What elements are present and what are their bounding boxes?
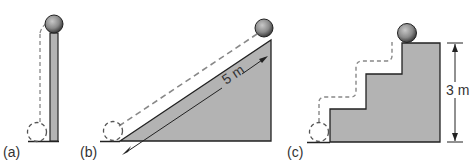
arrowhead-icon <box>452 44 458 52</box>
ball-start-icon <box>28 123 47 142</box>
inclined-plane <box>120 40 271 141</box>
ball-icon <box>45 15 63 33</box>
work-energy-diagram: (a) 5 m (b) 3 m (c) <box>0 0 475 163</box>
panel-label-c: (c) <box>287 144 303 160</box>
panel-b: 5 m (b) <box>80 19 273 160</box>
ball-icon <box>255 19 273 37</box>
panel-a: (a) <box>3 15 63 160</box>
staircase <box>330 43 440 142</box>
arrowhead-icon <box>452 133 458 141</box>
ball-start-icon <box>104 122 123 141</box>
panel-label-b: (b) <box>80 144 97 160</box>
ball-icon <box>398 24 417 43</box>
panel-label-a: (a) <box>3 144 20 160</box>
ball-start-icon <box>310 123 329 142</box>
arrowhead-icon <box>122 146 131 155</box>
height-label: 3 m <box>446 82 469 98</box>
pole <box>50 33 58 141</box>
panel-c: 3 m (c) <box>287 24 469 161</box>
